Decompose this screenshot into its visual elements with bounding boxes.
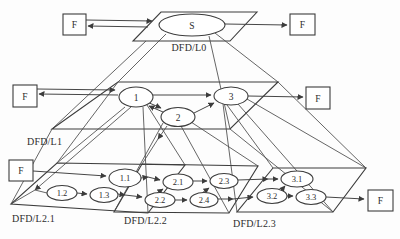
flow-f-to-1	[37, 89, 115, 90]
process-label-2-1: 2.1	[173, 177, 184, 187]
flow-s-to-f	[88, 26, 148, 27]
process-label-3-2: 3.2	[267, 191, 278, 201]
process-label-3-3: 3.3	[306, 192, 317, 202]
flow-into-1-2	[35, 190, 47, 193]
process-label-1-1: 1.1	[120, 173, 131, 183]
process-label-3-1: 3.1	[292, 174, 303, 184]
level-label-l2-1: DFD/L2.1	[12, 213, 55, 224]
external-label: F	[22, 92, 27, 102]
cone-line	[215, 33, 278, 82]
process-label-2-3: 2.3	[219, 176, 230, 186]
process-label-2: 2	[176, 113, 181, 123]
flow-1-1-to-edge	[141, 177, 148, 178]
flow-1-to-f	[39, 94, 118, 95]
external-label: F	[72, 20, 77, 30]
external-label: F	[18, 166, 23, 176]
level-label-l0: DFD/L0	[171, 42, 206, 53]
flow-1-2-to-1-3	[77, 193, 87, 194]
process-label-2-2: 2.2	[155, 195, 166, 205]
process-label-1: 1	[134, 93, 139, 103]
external-label: F	[300, 20, 305, 30]
process-label-s: S	[189, 21, 194, 31]
flow-2-to-3	[194, 103, 214, 113]
cone-line	[158, 126, 167, 139]
flow-f-to-s	[86, 20, 152, 21]
process-label-1-2: 1.2	[57, 188, 68, 198]
process-label-1-3: 1.3	[99, 190, 110, 200]
flow-edge-to-3-2	[233, 197, 253, 199]
process-label-2-4: 2.4	[199, 195, 210, 205]
flow-edge-to-2-2	[125, 195, 142, 197]
external-label: F	[378, 196, 383, 206]
level-label-l1: DFD/L1	[27, 136, 62, 147]
cone-line	[52, 41, 146, 129]
flow-3-to-f	[248, 96, 303, 97]
level-label-l2-2: DFD/L2.2	[124, 215, 167, 226]
level-label-l2-3: DFD/L2.3	[233, 218, 276, 229]
diagram-canvas: F F F F F F S 1 2 3 1.1 1.2 1.3 2.1 2.2 …	[0, 0, 400, 239]
dfd-leveling-diagram: F F F F F F S 1 2 3 1.1 1.2 1.3 2.1 2.2 …	[0, 0, 400, 239]
cone-line	[57, 107, 125, 163]
cone-line	[223, 104, 237, 212]
process-label-3: 3	[229, 92, 234, 102]
flow-3-3-to-f	[326, 197, 364, 199]
external-label: F	[315, 94, 320, 104]
flow-edge-to-2-1	[148, 177, 160, 180]
flow-s-to-f-right	[225, 24, 287, 25]
